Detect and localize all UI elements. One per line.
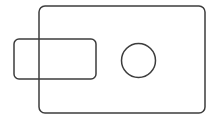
line-drawing-svg [0,0,214,124]
small-rounded-rectangle [14,39,96,79]
drawing-canvas [0,0,214,124]
circle-hole [122,44,156,78]
